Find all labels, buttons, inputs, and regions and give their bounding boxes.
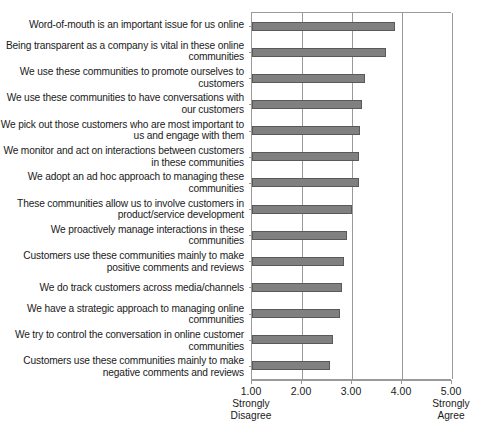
category-label: We have a strategic approach to managing… [0, 301, 248, 327]
category-label-axis: Word-of-mouth is an important issue for … [0, 12, 248, 380]
anchor-low-line2: Disagree [206, 410, 296, 422]
bar-row [252, 144, 451, 170]
bar [252, 335, 333, 344]
bar [252, 126, 360, 135]
bar [252, 309, 340, 318]
bar-row [252, 301, 451, 327]
category-label: We proactively manage interactions in th… [0, 222, 248, 248]
bar-row [252, 196, 451, 222]
bars-layer [252, 13, 451, 379]
anchor-high-line1: Strongly [406, 398, 484, 410]
category-label: We do track customers across media/chann… [0, 275, 248, 301]
bar [252, 257, 344, 266]
bar-row [252, 118, 451, 144]
category-label: Customers use these communities mainly t… [0, 354, 248, 380]
category-label: Word-of-mouth is an important issue for … [0, 12, 248, 38]
scale-anchor-high: Strongly Agree [406, 398, 484, 421]
horizontal-bar-chart: Word-of-mouth is an important issue for … [0, 0, 484, 444]
bar [252, 205, 352, 214]
bar-row [252, 274, 451, 300]
category-label: Being transparent as a company is vital … [0, 38, 248, 64]
bar [252, 100, 362, 109]
scale-anchor-low: Strongly Disagree [206, 398, 296, 421]
anchor-high-line2: Agree [406, 410, 484, 422]
bar [252, 231, 347, 240]
category-label: We monitor and act on interactions betwe… [0, 143, 248, 169]
bar-row [252, 353, 451, 379]
category-label: We try to control the conversation in on… [0, 327, 248, 353]
bar-row [252, 222, 451, 248]
bar-row [252, 91, 451, 117]
x-axis-tick-labels: 1.002.003.004.005.00 [0, 380, 484, 396]
category-label: We use these communities to have convers… [0, 91, 248, 117]
bar-row [252, 248, 451, 274]
category-label: We pick out those customers who are most… [0, 117, 248, 143]
bar [252, 74, 365, 83]
category-label: Customers use these communities mainly t… [0, 249, 248, 275]
category-label: We adopt an ad hoc approach to managing … [0, 170, 248, 196]
x-axis-tick-label: 5.00 [421, 385, 481, 397]
gridline [452, 13, 453, 379]
bar-row [252, 170, 451, 196]
bar [252, 152, 359, 161]
bar [252, 22, 395, 31]
bar-row [252, 13, 451, 39]
plot-area [251, 12, 451, 380]
bar-row [252, 39, 451, 65]
anchor-low-line1: Strongly [206, 398, 296, 410]
bar [252, 178, 359, 187]
bar [252, 283, 342, 292]
bar [252, 48, 386, 57]
category-label: We use these communities to promote ours… [0, 65, 248, 91]
category-label: These communities allow us to involve cu… [0, 196, 248, 222]
bar [252, 361, 330, 370]
bar-row [252, 65, 451, 91]
bar-row [252, 327, 451, 353]
